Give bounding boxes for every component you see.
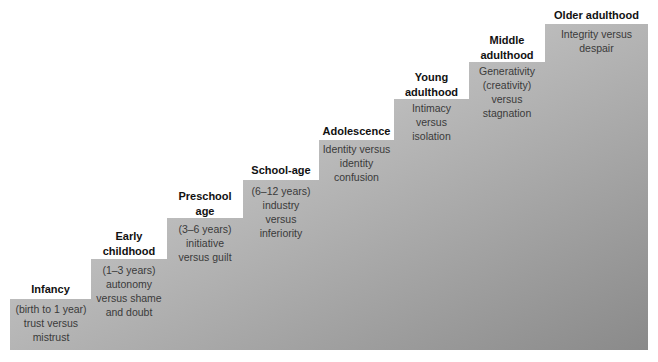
stage-title-young-adulthood: Young adulthood [394, 70, 469, 100]
stage-title-school-age: School-age [243, 163, 319, 178]
stage-desc-school-age: (6–12 years) industry versus inferiority [243, 184, 319, 240]
stage-title-infancy: Infancy [10, 282, 91, 297]
stage-desc-adolescence: Identity versus identity confusion [317, 142, 396, 184]
stage-title-adolescence: Adolescence [319, 124, 394, 139]
stage-desc-preschool-age: (3–6 years) initiative versus guilt [167, 222, 243, 264]
stage-desc-middle-adulthood: Generativity (creativity) versus stagnat… [469, 64, 545, 120]
stage-title-middle-adulthood: Middle adulthood [469, 33, 545, 63]
stage-desc-young-adulthood: Intimacy versus isolation [394, 101, 469, 143]
stage-desc-older-adulthood: Integrity versus despair [545, 27, 648, 55]
stage-desc-infancy: (birth to 1 year) trust versus mistrust [8, 302, 94, 344]
stage-title-older-adulthood: Older adulthood [545, 8, 648, 23]
stage-title-early-childhood: Early childhood [91, 229, 167, 259]
stage-title-preschool-age: Preschool age [167, 189, 243, 219]
stage-desc-early-childhood: (1–3 years) autonomy versus shame and do… [91, 263, 167, 319]
